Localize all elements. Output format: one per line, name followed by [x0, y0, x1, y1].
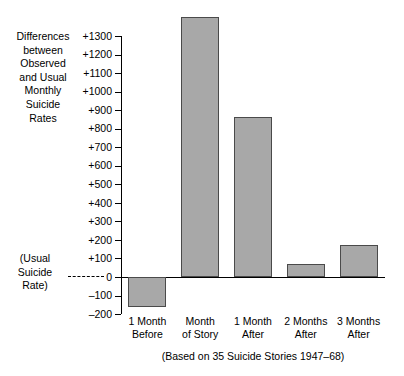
y-tick-label: +800 — [66, 123, 112, 134]
y-tick-mark — [115, 203, 121, 204]
category-label: Month of Story — [174, 315, 227, 341]
y-axis-line — [121, 36, 122, 314]
bar — [287, 264, 325, 277]
y-tick-label: +600 — [66, 160, 112, 171]
y-tick-mark — [115, 221, 121, 222]
y-tick-mark — [115, 296, 121, 297]
chart-caption: (Based on 35 Suicide Stories 1947–68) — [121, 350, 385, 362]
y-tick-mark — [115, 92, 121, 93]
y-tick-mark — [115, 73, 121, 74]
y-tick-label: +300 — [66, 216, 112, 227]
plot-area: +1300+1200+1100+1000+900+800+700+600+500… — [0, 0, 404, 376]
category-label: 3 Months After — [332, 315, 385, 341]
y-tick-label: +1100 — [66, 68, 112, 79]
bar — [234, 117, 272, 277]
bar — [128, 277, 166, 307]
y-tick-mark — [115, 36, 121, 37]
y-tick-label: +900 — [66, 105, 112, 116]
y-tick-label: –100 — [66, 290, 112, 301]
y-tick-mark — [115, 129, 121, 130]
y-tick-mark — [115, 277, 121, 278]
y-tick-mark — [115, 184, 121, 185]
y-tick-label: +500 — [66, 179, 112, 190]
category-label: 2 Months After — [279, 315, 332, 341]
y-tick-mark — [115, 258, 121, 259]
y-tick-mark — [115, 166, 121, 167]
y-tick-label: +1000 — [66, 86, 112, 97]
y-tick-label: –200 — [66, 309, 112, 320]
y-tick-label: +100 — [66, 253, 112, 264]
y-tick-label: +400 — [66, 198, 112, 209]
category-label: 1 Month Before — [121, 315, 174, 341]
y-tick-label: +700 — [66, 142, 112, 153]
suicide-rates-bar-chart: Differences between Observed and Usual M… — [0, 0, 404, 376]
y-tick-mark — [115, 110, 121, 111]
bar — [181, 17, 219, 277]
y-tick-label: 0 — [66, 272, 112, 283]
y-tick-mark — [115, 147, 121, 148]
category-label: 1 Month After — [227, 315, 280, 341]
y-tick-mark — [115, 55, 121, 56]
bar — [340, 245, 378, 277]
y-tick-label: +200 — [66, 235, 112, 246]
y-tick-label: +1200 — [66, 49, 112, 60]
y-tick-label: +1300 — [66, 31, 112, 42]
y-tick-mark — [115, 240, 121, 241]
